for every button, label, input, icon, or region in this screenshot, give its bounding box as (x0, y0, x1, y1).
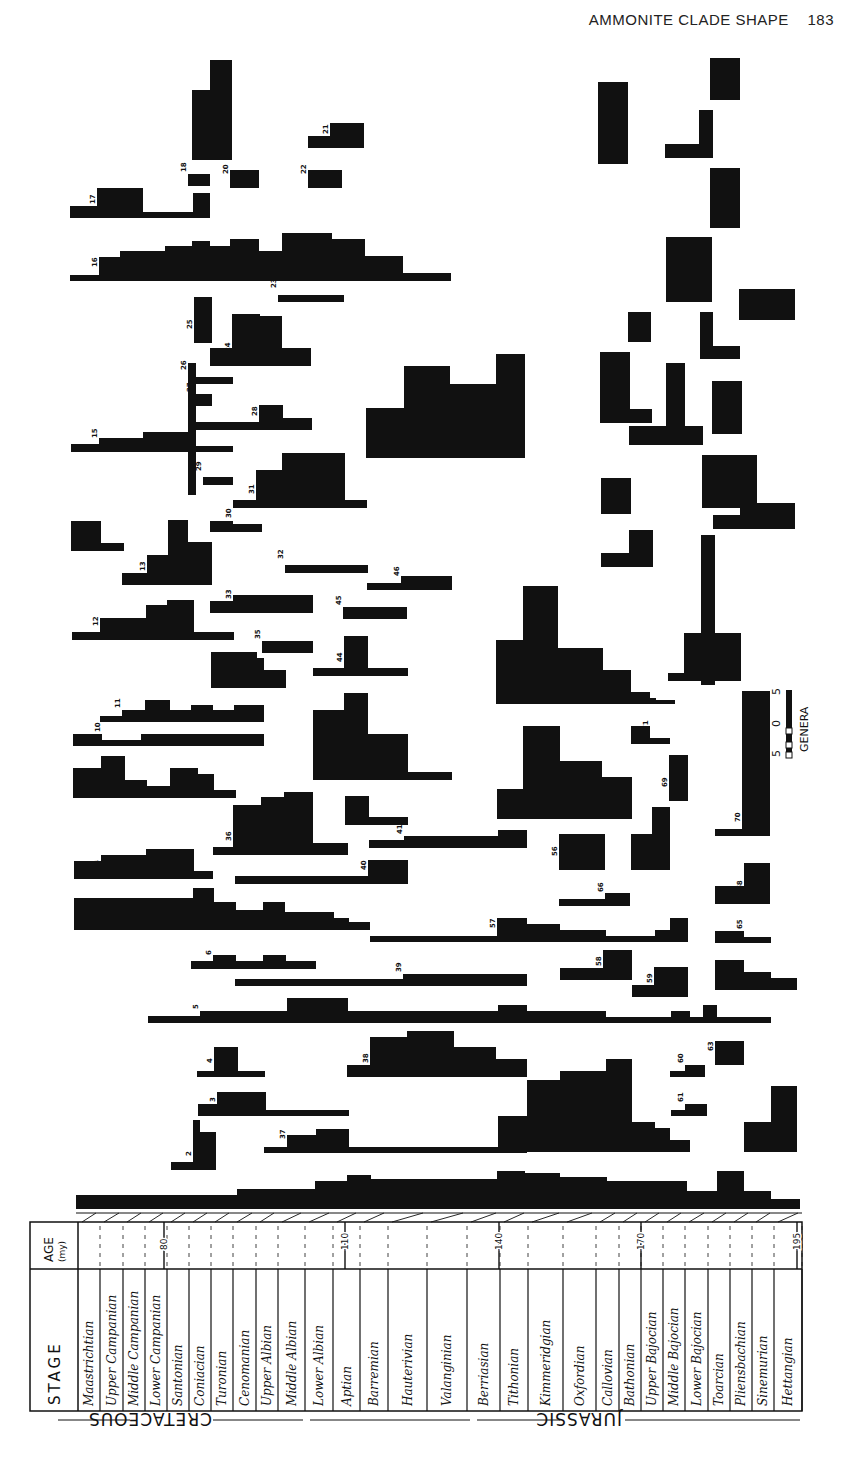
clade-label: 31 (248, 484, 256, 494)
clade-label: 45 (335, 595, 343, 605)
clade-label: 56 (551, 846, 559, 856)
clade-53b (629, 530, 653, 567)
stage-label: Pliensbachian (734, 1321, 748, 1407)
clade-label: 12 (92, 616, 100, 626)
clade-74 (702, 455, 757, 508)
clade-77b (700, 346, 740, 359)
clade-label: 32 (277, 549, 285, 559)
clade-20: 20 (222, 164, 259, 188)
clade-label: 8 (93, 860, 101, 865)
clade-25: 25 (186, 297, 212, 343)
clade-label: 69 (661, 777, 669, 787)
clade-78 (739, 289, 795, 320)
clade-21: 21 (308, 123, 364, 148)
clade-label: 17 (89, 194, 97, 204)
clade-14: 14 (71, 521, 124, 551)
period-cretaceous: CRETACEOUS (88, 1409, 212, 1429)
clade-79b (682, 237, 712, 302)
clade-3: 3 (198, 1092, 349, 1116)
clade-38: 38 (347, 1031, 527, 1077)
stage-label: Middle Bajocian (667, 1307, 681, 1407)
clade-10: 10 (73, 722, 264, 746)
clade-82 (710, 58, 740, 100)
clade-label: 21 (322, 124, 330, 134)
clade-13: 13 (122, 520, 212, 585)
clade-46: 46 (367, 566, 452, 590)
clade-label: 40 (360, 860, 368, 870)
clade-2: 2 (171, 1120, 216, 1170)
clade-17: 17 (70, 188, 210, 218)
stage-label: Callovian (601, 1349, 615, 1406)
clade-67: 67 (631, 807, 670, 870)
clade-label: 14 (93, 527, 101, 537)
clade-60: 60 (670, 1053, 705, 1077)
stage-label: Kimmeridgian (539, 1320, 553, 1407)
clade-label: 39 (395, 962, 403, 972)
clade-label: 5 (192, 1004, 200, 1009)
clade-68: 68 (715, 863, 770, 904)
clade-31: 31 (233, 453, 367, 508)
clade-label: 46 (393, 566, 401, 576)
stage-label: Turonian (215, 1351, 229, 1406)
clade-56: 56 (551, 834, 605, 870)
clade-41: 41 (369, 824, 527, 848)
stage-label: Lower Albian (312, 1325, 326, 1407)
clade-label: 18 (180, 162, 188, 172)
clade-1 (76, 1171, 800, 1209)
clade-label: 34 (249, 664, 257, 674)
clade-label: 29 (195, 461, 203, 471)
stage-label: Valanginian (440, 1335, 454, 1406)
clade-label: 37 (279, 1129, 287, 1139)
clade-55: 55 (497, 726, 632, 819)
clade-62: 62 (744, 1086, 797, 1152)
clade-label: 66 (597, 882, 605, 892)
clade-54: 54 (496, 586, 675, 704)
clade-label: 35 (254, 629, 262, 639)
clade-label: 4 (206, 1058, 214, 1063)
clade-label: 71 (642, 720, 650, 730)
clade-64: 64 (715, 960, 797, 990)
clade-9: 9 (73, 756, 236, 798)
clade-81b (699, 110, 713, 158)
clade-16: 16 (70, 233, 451, 281)
clade-32: 32 (277, 549, 368, 573)
clade-label: 42 (361, 801, 369, 811)
age-tick-label: 195 (792, 1233, 802, 1250)
clade-label: 41 (396, 824, 404, 834)
clade-label: 54 (515, 680, 523, 690)
clade-69: 69 (661, 755, 688, 801)
stage-label: Middle Campanian (127, 1291, 141, 1407)
clade-label: 70 (734, 812, 742, 822)
clade-label: 65 (736, 919, 744, 929)
clade-label: 64 (736, 966, 744, 976)
clade-label: 23 (270, 278, 278, 288)
clade-18: 18 (180, 162, 210, 186)
clade-23: 23 (270, 278, 344, 302)
stage-label: Lower Campanian (149, 1295, 163, 1407)
clade-label: 26 (180, 360, 188, 370)
stage-header: STAGE (46, 1341, 64, 1405)
clade-label: 68 (736, 880, 744, 890)
age-tick-label: 140 (494, 1233, 504, 1250)
clade-label: 3 (209, 1097, 217, 1102)
clade-label: 38 (362, 1053, 370, 1063)
clade-19: 19 (192, 60, 232, 160)
clade-5: 5 (148, 998, 771, 1023)
clade-label: 63 (707, 1041, 715, 1051)
clade-59: 59 (632, 967, 688, 997)
clade-label: 15 (91, 428, 99, 438)
clade-label: 67 (644, 846, 652, 856)
clade-63: 63 (707, 1041, 744, 1065)
stage-label: Sinemurian (756, 1336, 770, 1406)
clade-48 (598, 82, 628, 164)
clade-label: 36 (225, 831, 233, 841)
clade-47: 47 (366, 354, 525, 458)
stage-label: Santonian (171, 1344, 185, 1406)
clade-label: 2 (185, 1151, 193, 1156)
stage-label: Cenomanian (238, 1330, 252, 1406)
clade-label: 25 (186, 319, 194, 329)
clade-label: 6 (205, 950, 213, 955)
clade-label: 59 (646, 973, 654, 983)
clade-28: 28 (195, 405, 312, 430)
clade-label: 11 (114, 698, 122, 708)
